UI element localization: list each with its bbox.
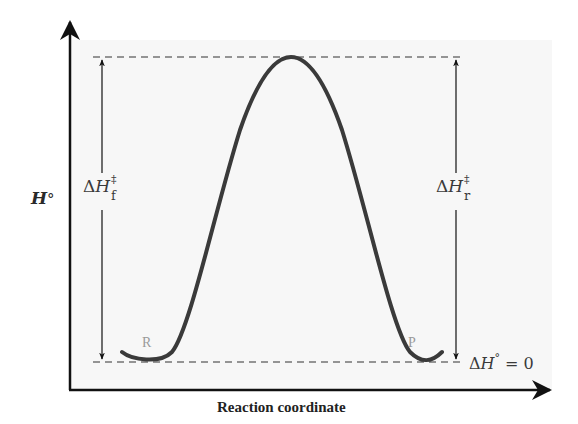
energy-diagram: H° ΔH‡f ΔH‡r R P ΔH° = 0 Reaction coordi… xyxy=(0,0,578,424)
forward-activation-label: ΔH‡f xyxy=(83,176,117,196)
reactant-label: R xyxy=(142,335,151,351)
y-axis-label: H° xyxy=(31,188,55,208)
product-label: P xyxy=(408,335,416,351)
delta-h-zero-label: ΔH° = 0 xyxy=(469,354,534,373)
reverse-activation-label: ΔH‡r xyxy=(436,176,470,196)
x-axis-label: Reaction coordinate xyxy=(217,399,346,416)
